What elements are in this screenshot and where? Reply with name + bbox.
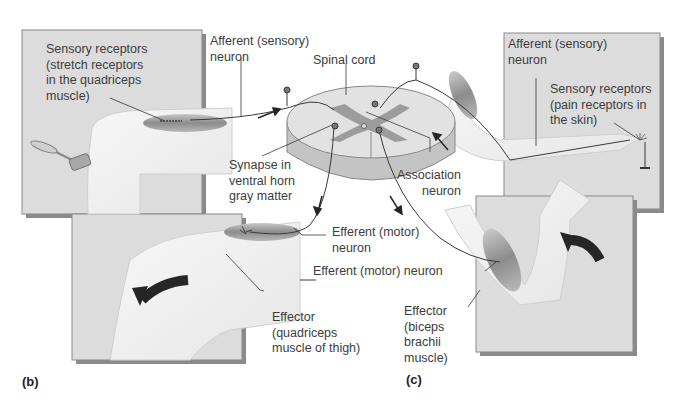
label-efferent-neuron-b: Efferent (motor) neuron — [332, 225, 419, 256]
label-sensory-receptors-pain: Sensory receptors (pain receptors in the… — [550, 82, 651, 129]
label-efferent-neuron-c: Efferent (motor) neuron — [313, 264, 443, 280]
label-synapse-ventral-horn: Synapse in ventral horn gray matter — [229, 158, 295, 205]
label-afferent-neuron-b: Afferent (sensory) neuron — [210, 34, 309, 65]
label-sensory-receptors-stretch: Sensory receptors (stretch receptors in … — [46, 42, 147, 104]
panel-letter-c: (c) — [406, 372, 422, 387]
spinal-cord-cross-section — [287, 86, 455, 180]
label-association-neuron: Association neuron — [397, 168, 461, 199]
label-effector-biceps: Effector (biceps brachii muscle) — [404, 304, 448, 366]
label-spinal-cord: Spinal cord — [313, 53, 376, 69]
quadriceps-muscle — [224, 223, 300, 241]
label-effector-quadriceps: Effector (quadriceps muscle of thigh) — [272, 310, 360, 357]
panel-letter-b: (b) — [22, 374, 39, 389]
label-afferent-neuron-c: Afferent (sensory) neuron — [508, 37, 607, 68]
